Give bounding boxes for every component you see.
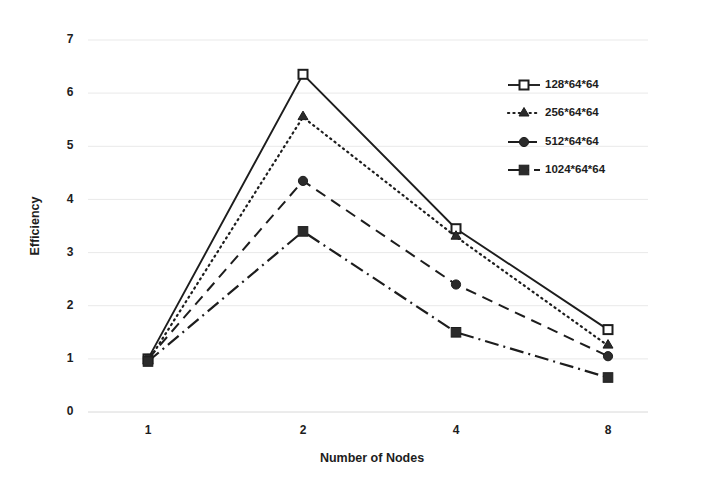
data-point-marker-triangle xyxy=(298,111,308,120)
data-point-marker-open-square xyxy=(299,70,308,79)
y-tick-label: 6 xyxy=(67,85,74,99)
series-128x64x64 xyxy=(144,70,613,364)
chart-legend: 128*64*64 256*64*64 512*64*64 1024*64*64 xyxy=(508,78,606,175)
data-point-marker-circle xyxy=(298,176,307,185)
y-tick-label: 1 xyxy=(67,351,74,365)
y-tick-label: 0 xyxy=(67,404,74,418)
data-point-marker-filled-square xyxy=(143,357,153,367)
data-point-marker-open-square xyxy=(604,325,613,334)
y-axis-tick-labels: 7 6 5 4 3 2 1 0 xyxy=(67,32,74,418)
legend-marker-open-square xyxy=(520,81,529,90)
y-tick-label: 2 xyxy=(67,298,74,312)
y-tick-label: 5 xyxy=(67,138,74,152)
legend-label: 256*64*64 xyxy=(545,106,599,118)
legend-label: 128*64*64 xyxy=(545,78,599,90)
chart-canvas: 7 6 5 4 3 2 1 0 1 2 4 8 Number of Nodes … xyxy=(0,0,716,490)
legend-marker-filled-square xyxy=(519,165,529,175)
data-point-marker-triangle xyxy=(603,340,613,349)
x-axis-title: Number of Nodes xyxy=(320,451,424,465)
y-tick-label: 7 xyxy=(67,32,74,46)
legend-marker-circle xyxy=(519,137,528,146)
y-axis-title: Efficiency xyxy=(28,196,42,255)
legend-item-128x64x64[interactable]: 128*64*64 xyxy=(508,78,599,90)
data-point-marker-filled-square xyxy=(603,373,613,383)
efficiency-line-chart: 7 6 5 4 3 2 1 0 1 2 4 8 Number of Nodes … xyxy=(0,0,716,490)
data-point-marker-filled-square xyxy=(298,227,308,237)
data-point-marker-filled-square xyxy=(451,328,461,338)
y-tick-label: 4 xyxy=(67,192,74,206)
series-line-128x64x64 xyxy=(148,74,608,359)
x-tick-label: 1 xyxy=(145,423,152,437)
series-line-1024x64x64 xyxy=(148,231,608,377)
legend-item-512x64x64[interactable]: 512*64*64 xyxy=(508,135,599,147)
legend-item-1024x64x64[interactable]: 1024*64*64 xyxy=(508,163,606,175)
legend-label: 1024*64*64 xyxy=(545,163,606,175)
legend-label: 512*64*64 xyxy=(545,135,599,147)
legend-marker-triangle xyxy=(519,108,529,117)
series-512x64x64 xyxy=(143,176,612,363)
x-tick-label: 4 xyxy=(453,423,460,437)
data-point-marker-circle xyxy=(451,280,460,289)
series-line-256x64x64 xyxy=(148,117,608,361)
legend-item-256x64x64[interactable]: 256*64*64 xyxy=(508,106,599,118)
y-tick-label: 3 xyxy=(67,245,74,259)
x-tick-label: 8 xyxy=(605,423,612,437)
x-axis-tick-labels: 1 2 4 8 xyxy=(145,423,612,437)
x-tick-label: 2 xyxy=(300,423,307,437)
data-point-marker-circle xyxy=(603,352,612,361)
series-line-512x64x64 xyxy=(148,181,608,359)
